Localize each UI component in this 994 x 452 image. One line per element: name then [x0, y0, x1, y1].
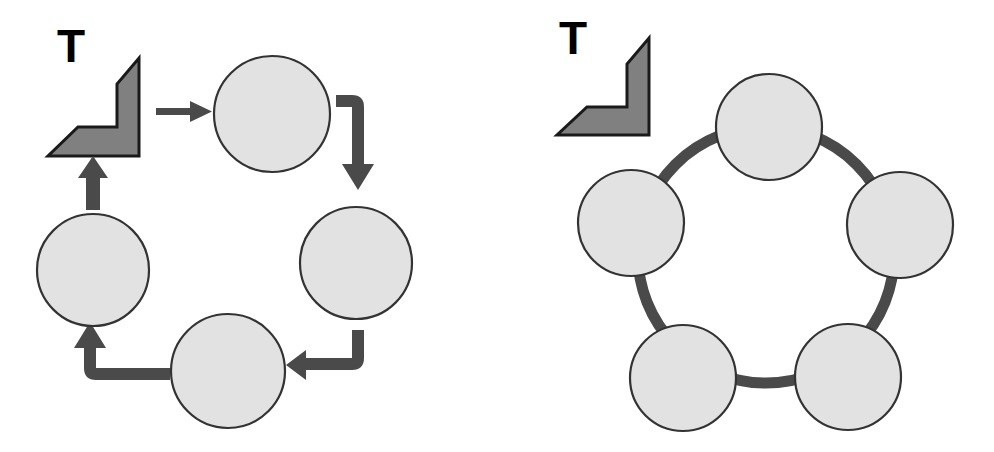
arrow-cycle-diagram: T [0, 0, 497, 452]
node-bottom-left[interactable] [630, 325, 736, 431]
panel-label-t-left: T [57, 20, 85, 72]
arrow-top-to-right [336, 95, 374, 190]
node-top[interactable] [214, 56, 330, 172]
diagram-canvas: T [0, 0, 994, 452]
node-bottom-right[interactable] [795, 324, 901, 430]
node-bottom[interactable] [171, 314, 285, 428]
arrow-left-to-shape [78, 156, 108, 210]
ring-cycle-diagram: T [497, 0, 994, 452]
arrow-shape-to-top [156, 101, 212, 122]
arrow-cycle-svg: T [0, 0, 497, 452]
node-top[interactable] [716, 74, 822, 180]
node-right[interactable] [847, 172, 953, 278]
node-left[interactable] [578, 170, 684, 276]
corner-arrow-polygon [48, 58, 139, 156]
panel-label-t-right: T [559, 12, 587, 64]
arrow-bottom-to-left [74, 322, 170, 380]
node-right[interactable] [300, 207, 412, 319]
node-left[interactable] [37, 214, 149, 326]
ring-cycle-svg: T [497, 0, 994, 452]
arrow-right-to-bottom [286, 330, 364, 380]
